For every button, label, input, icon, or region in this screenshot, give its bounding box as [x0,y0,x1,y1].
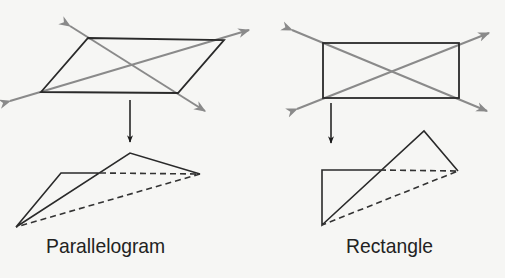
parallelogram-figure [10,26,249,227]
parallelogram-label: Parallelogram [46,234,165,258]
solid-triangle [16,153,200,227]
rectangle-label: Rectangle [346,234,433,258]
rectangle-figure [292,30,489,225]
solid-triangle [322,131,458,225]
diagram-canvas: Parallelogram Rectangle [0,0,505,278]
dashed-triangle [322,170,458,225]
dashed-triangle [16,173,200,227]
